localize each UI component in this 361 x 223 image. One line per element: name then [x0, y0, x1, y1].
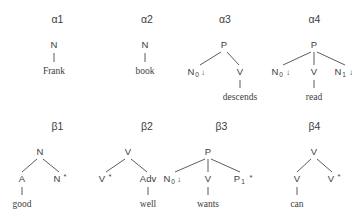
substitution-down-arrow-icon: ↓: [349, 68, 353, 77]
node-beta3-p1-label: P: [234, 173, 240, 184]
tree-title-beta4: β4: [268, 120, 361, 132]
edge-beta4-root-to-v: [297, 159, 311, 172]
anchor-beta1: good: [13, 199, 32, 209]
node-beta4-v: V: [294, 173, 301, 184]
substitution-down-arrow-icon: ↓: [177, 175, 181, 184]
node-beta4-v-label: V: [328, 173, 335, 184]
node-beta3-v: V: [205, 173, 212, 184]
node-alpha4-n0-subscript: 0: [279, 71, 283, 78]
edge-beta3-root-to-p1star: [211, 159, 240, 172]
tree-alpha4: P N 0 ↓ V N 1 ↓ read: [268, 36, 361, 102]
tree-beta3: P N 0 ↓ V P 1 * wants: [160, 143, 268, 209]
tree-beta4: V V V * can: [268, 143, 361, 209]
node-alpha4-n1-label: N: [335, 66, 342, 77]
edge-beta2-root-to-vstar: [106, 159, 125, 172]
node-alpha3-root: P: [221, 39, 227, 50]
foot-node-star-icon: *: [64, 172, 67, 181]
node-beta1-n-label: N: [54, 173, 61, 184]
tag-elementary-trees-figure: α1 N Frank α2 N book α3 P N 0 ↓: [0, 0, 361, 223]
node-beta4-root: V: [311, 146, 318, 157]
node-alpha4-n1-subscript: 1: [342, 71, 346, 78]
substitution-down-arrow-icon: ↓: [286, 68, 290, 77]
node-beta2-v-foot: V *: [99, 172, 112, 184]
foot-node-star-icon: *: [109, 172, 112, 181]
node-alpha4-n1-substitution: N 1 ↓: [335, 66, 353, 78]
edge-alpha4-root-to-n1: [317, 52, 345, 65]
tree-title-beta3: β3: [175, 120, 268, 132]
anchor-alpha2: book: [136, 66, 155, 76]
edge-beta1-root-to-nstar: [43, 159, 59, 172]
anchor-beta2: well: [140, 199, 157, 209]
edge-alpha3-root-to-n0: [200, 52, 221, 65]
node-beta3-n0-label: N: [164, 173, 171, 184]
anchor-alpha3: descends: [223, 92, 258, 102]
edge-beta1-root-to-a: [22, 159, 37, 172]
node-beta3-n0-subscript: 0: [171, 178, 175, 185]
node-alpha4-n0-label: N: [272, 66, 279, 77]
node-beta2-v-label: V: [99, 173, 106, 184]
edge-alpha3-root-to-v: [227, 52, 239, 65]
anchor-beta3: wants: [197, 199, 219, 209]
node-alpha3-v: V: [237, 66, 244, 77]
edge-beta4-root-to-vstar: [317, 159, 332, 172]
node-alpha1-root: N: [51, 39, 58, 50]
tree-beta3-svg: P N 0 ↓ V P 1 * wants: [160, 143, 268, 209]
anchor-beta4: can: [290, 199, 303, 209]
tree-title-alpha4: α4: [268, 13, 361, 25]
node-alpha2-root: N: [142, 39, 149, 50]
node-beta1-a: A: [19, 173, 26, 184]
node-beta3-root: P: [205, 146, 211, 157]
substitution-down-arrow-icon: ↓: [201, 68, 205, 77]
anchor-alpha4: read: [306, 92, 323, 102]
node-beta4-v-foot: V *: [328, 172, 341, 184]
edge-alpha4-root-to-n0: [283, 52, 311, 65]
foot-node-star-icon: *: [338, 172, 341, 181]
node-beta2-root: V: [125, 146, 132, 157]
node-alpha4-root: P: [311, 39, 317, 50]
node-beta2-adv: Adv: [140, 173, 157, 184]
node-alpha3-n0-label: N: [188, 66, 195, 77]
node-beta3-p1-foot: P 1 *: [234, 173, 253, 185]
node-alpha3-n0-substitution: N 0 ↓: [188, 66, 205, 78]
node-beta3-n0-substitution: N 0 ↓: [164, 173, 181, 185]
tree-alpha4-svg: P N 0 ↓ V N 1 ↓ read: [268, 36, 361, 102]
foot-node-star-icon: *: [250, 173, 253, 182]
node-beta1-root: N: [37, 146, 44, 157]
tree-beta4-svg: V V V * can: [268, 143, 361, 209]
tree-title-alpha3: α3: [182, 13, 268, 25]
tree-alpha3: P N 0 ↓ V descends: [182, 36, 282, 102]
node-beta3-p1-subscript: 1: [241, 178, 245, 185]
edge-beta2-root-to-adv: [131, 159, 147, 172]
edge-beta3-root-to-n0: [175, 159, 205, 172]
tree-alpha3-svg: P N 0 ↓ V descends: [182, 36, 282, 102]
node-alpha3-n0-subscript: 0: [195, 71, 199, 78]
anchor-alpha1: Frank: [43, 66, 65, 76]
node-alpha4-n0-substitution: N 0 ↓: [272, 66, 290, 78]
node-alpha4-v: V: [311, 66, 318, 77]
node-beta1-n-foot: N *: [54, 172, 67, 184]
